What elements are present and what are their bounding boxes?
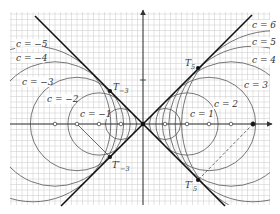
circle-label-c--1: c = −1 [80, 109, 112, 119]
circle-label-c--4: c = −4 [16, 53, 48, 63]
tangent-label-subscript: 5 [191, 63, 195, 71]
tangent-point-T5 [196, 66, 200, 70]
circle-label-c-2: c = 2 [214, 99, 238, 109]
center-marker-c-5 [251, 122, 255, 126]
circle-label-c-3: c = 3 [244, 80, 268, 90]
circle-label-c--3: c = −3 [22, 77, 54, 87]
circle-label-c-6: c = 6 [252, 20, 276, 30]
envelope-of-circles-diagram: T5T′5T−3T′−3 c = −5c = −4c = −3c = −2c =… [0, 0, 280, 214]
circle-label-c--2: c = −2 [47, 94, 79, 104]
circle-label-c-5: c = 5 [252, 37, 276, 47]
center-marker-c--4 [53, 122, 57, 126]
tangent-point-T-3-prime [108, 155, 112, 159]
tangent-label-subscript: 5 [193, 185, 197, 193]
tangent-label-subscript: −3 [119, 87, 129, 95]
circle-label-c-4: c = 4 [252, 55, 276, 65]
tangent-label-main: T′ [112, 160, 120, 170]
center-marker-c-1 [163, 122, 167, 126]
circle-label-c-1: c = 1 [190, 109, 214, 119]
center-marker-c--3 [75, 122, 79, 126]
center-marker-c-2 [185, 122, 189, 126]
center-marker-c-3 [207, 122, 211, 126]
tangent-label-main: T′ [185, 180, 193, 190]
circle-label-c--5: c = −5 [16, 39, 48, 49]
center-marker-c--1 [119, 122, 123, 126]
origin-point [141, 122, 145, 126]
tangent-point-T-3 [108, 89, 112, 93]
center-marker-c-4 [229, 122, 233, 126]
center-marker-c--2 [97, 122, 101, 126]
tangent-point-T5-prime [196, 178, 200, 182]
tangent-label-subscript: −3 [120, 165, 130, 173]
